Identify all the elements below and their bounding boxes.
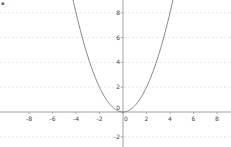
tick-labels: -8-6-4-202468-224680 (26, 9, 219, 140)
y-tick-label: 2 (116, 83, 120, 90)
axes (0, 0, 231, 147)
x-tick-label: 0 (124, 115, 128, 122)
x-tick-label: -4 (73, 115, 79, 122)
gridlines (0, 13, 231, 137)
y-tick-label: 6 (116, 34, 120, 41)
y-tick-label: 4 (116, 58, 120, 65)
x-tick-label: -2 (97, 115, 103, 122)
function-plot: -8-6-4-202468-224680 (0, 0, 231, 147)
x-tick-label: -6 (50, 115, 56, 122)
x-tick-label: 2 (145, 115, 149, 122)
x-tick-label: -8 (26, 115, 32, 122)
corner-mark: ▪ (1, 0, 4, 6)
x-tick-label: 6 (192, 115, 196, 122)
x-tick-label: 4 (168, 115, 172, 122)
y-tick-label: -2 (114, 133, 120, 140)
x-tick-label: 8 (215, 115, 219, 122)
y-tick-label: 8 (116, 9, 120, 16)
